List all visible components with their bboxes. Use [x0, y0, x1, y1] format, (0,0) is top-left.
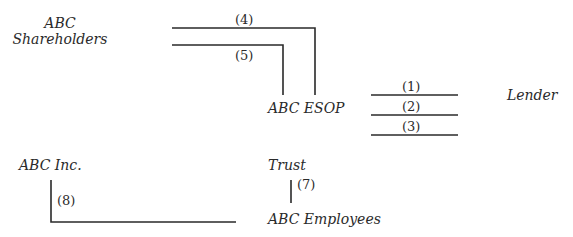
flow-line-5	[172, 45, 283, 95]
node-employees: ABC Employees	[268, 211, 381, 227]
node-abc-inc: ABC Inc.	[19, 157, 82, 173]
step-label-7: (7)	[297, 178, 315, 192]
step-label-4: (4)	[235, 13, 253, 27]
step-label-1: (1)	[402, 80, 420, 94]
node-trust: Trust	[268, 157, 306, 173]
node-shareholders: ABC Shareholders	[10, 15, 110, 47]
flow-line-8	[51, 180, 236, 222]
node-esop: ABC ESOP	[268, 100, 345, 116]
step-label-2: (2)	[402, 100, 420, 114]
node-shareholders-line2: Shareholders	[10, 31, 110, 47]
node-lender: Lender	[507, 87, 558, 103]
step-label-3: (3)	[402, 120, 420, 134]
step-label-5: (5)	[235, 49, 253, 63]
node-shareholders-line1: ABC	[10, 15, 110, 31]
step-label-8: (8)	[57, 194, 75, 208]
